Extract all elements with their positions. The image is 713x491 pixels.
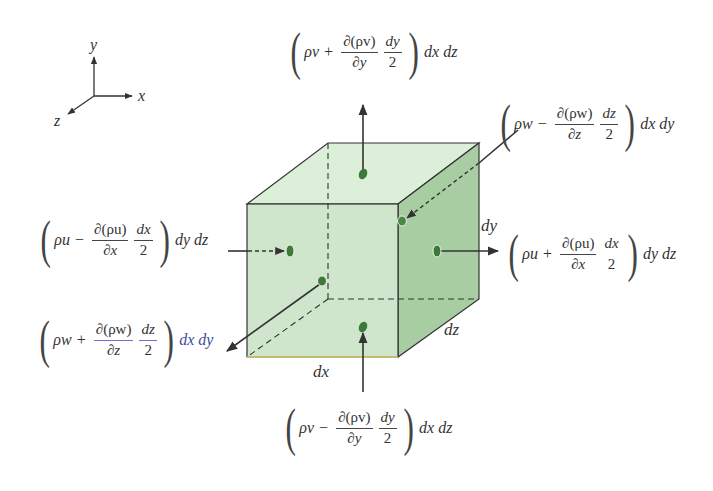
half-step-fraction: dx2 xyxy=(602,235,620,273)
half-step-fraction: dy2 xyxy=(379,409,397,447)
flux-equation-back: ( ρw − ∂(ρw)∂z dz2 ) dx dy xyxy=(497,98,674,150)
flux-operator: − xyxy=(75,231,84,249)
flux-operator: + xyxy=(543,245,552,263)
axis-label-x: x xyxy=(138,87,145,105)
flux-term: ρw xyxy=(53,331,71,349)
open-paren: ( xyxy=(39,314,49,366)
flux-operator: + xyxy=(324,43,333,61)
flux-term: ρu xyxy=(522,245,538,263)
half-step-numerator: dz xyxy=(600,105,617,124)
flux-equation-front: ( ρw + ∂(ρw)∂z dz2 ) dx dy xyxy=(36,314,213,366)
dot-back xyxy=(398,216,407,226)
open-paren: ( xyxy=(40,214,50,266)
derivative-denominator: ∂x xyxy=(103,241,117,259)
half-step-denominator: 2 xyxy=(140,241,148,259)
dim-label-dy: dy xyxy=(481,216,497,236)
coordinate-axes xyxy=(68,57,132,114)
derivative-denominator: ∂z xyxy=(107,341,120,359)
derivative-fraction: ∂(ρu)∂x xyxy=(92,221,128,259)
open-paren: ( xyxy=(508,228,518,280)
flux-area: dx dy xyxy=(179,331,213,349)
flux-area: dx dz xyxy=(419,419,452,437)
derivative-fraction: ∂(ρv)∂y xyxy=(336,409,372,447)
half-step-fraction: dx2 xyxy=(134,221,152,259)
axis-label-y: y xyxy=(90,36,97,54)
half-step-numerator: dy xyxy=(379,409,397,428)
half-step-fraction: dy2 xyxy=(384,33,402,71)
derivative-denominator: ∂y xyxy=(347,429,361,447)
close-paren: ) xyxy=(624,98,634,150)
half-step-denominator: 2 xyxy=(144,341,152,359)
open-paren: ( xyxy=(285,402,295,454)
flux-area: dy dz xyxy=(643,245,676,263)
flux-term: ρv xyxy=(299,419,314,437)
flux-area: dx dy xyxy=(640,115,674,133)
half-step-denominator: 2 xyxy=(608,255,616,273)
half-step-fraction: dz2 xyxy=(600,105,617,143)
flux-operator: − xyxy=(319,419,328,437)
derivative-numerator: ∂(ρw) xyxy=(555,105,595,124)
axis-label-z: z xyxy=(54,112,60,130)
close-paren: ) xyxy=(403,402,413,454)
close-paren: ) xyxy=(163,314,173,366)
half-step-denominator: 2 xyxy=(389,53,397,71)
half-step-denominator: 2 xyxy=(384,429,392,447)
flux-equation-top: ( ρv + ∂(ρv)∂y dy2 ) dx dz xyxy=(287,26,457,78)
derivative-numerator: ∂(ρv) xyxy=(341,33,377,52)
half-step-numerator: dy xyxy=(384,33,402,52)
flux-equation-left: ( ρu − ∂(ρu)∂x dx2 ) dy dz xyxy=(37,214,208,266)
close-paren: ) xyxy=(627,228,637,280)
derivative-fraction: ∂(ρw)∂z xyxy=(94,321,134,359)
derivative-numerator: ∂(ρw) xyxy=(94,321,134,340)
derivative-fraction: ∂(ρw)∂z xyxy=(555,105,595,143)
half-step-fraction: dz2 xyxy=(139,321,156,359)
flux-equation-right: ( ρu + ∂(ρu)∂x dx2 ) dy dz xyxy=(505,228,676,280)
derivative-fraction: ∂(ρu)∂x xyxy=(560,235,596,273)
flux-area: dy dz xyxy=(175,231,208,249)
flux-area: dx dz xyxy=(424,43,457,61)
half-step-denominator: 2 xyxy=(605,125,613,143)
derivative-denominator: ∂y xyxy=(352,53,366,71)
flux-term: ρu xyxy=(54,231,70,249)
derivative-numerator: ∂(ρu) xyxy=(92,221,128,240)
dot-front xyxy=(318,276,327,286)
flux-operator: + xyxy=(77,331,86,349)
flux-equation-bottom: ( ρv − ∂(ρv)∂y dy2 ) dx dz xyxy=(282,402,452,454)
derivative-denominator: ∂z xyxy=(568,125,581,143)
flux-term: ρv xyxy=(304,43,319,61)
dim-label-dz: dz xyxy=(444,320,459,340)
dot-left xyxy=(286,245,294,257)
flux-operator: − xyxy=(538,115,547,133)
derivative-denominator: ∂x xyxy=(571,255,585,273)
close-paren: ) xyxy=(159,214,169,266)
open-paren: ( xyxy=(290,26,300,78)
half-step-numerator: dx xyxy=(602,235,620,254)
half-step-numerator: dx xyxy=(134,221,152,240)
open-paren: ( xyxy=(500,98,510,150)
z-axis xyxy=(68,96,94,114)
dim-label-dx: dx xyxy=(313,362,329,382)
derivative-fraction: ∂(ρv)∂y xyxy=(341,33,377,71)
dot-right xyxy=(433,245,441,257)
close-paren: ) xyxy=(408,26,418,78)
derivative-numerator: ∂(ρv) xyxy=(336,409,372,428)
half-step-numerator: dz xyxy=(139,321,156,340)
flux-term: ρw xyxy=(514,115,532,133)
derivative-numerator: ∂(ρu) xyxy=(560,235,596,254)
